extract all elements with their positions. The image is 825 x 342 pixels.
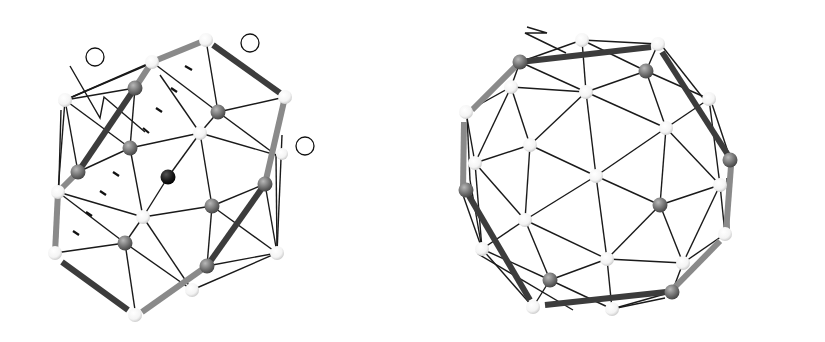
panel-b — [48, 33, 314, 322]
cluster-diagram-figure — [0, 0, 825, 342]
panel-mc-atoms — [459, 33, 738, 316]
label-circled-2-over-tau — [241, 34, 259, 52]
label-tau-circled-2 — [86, 48, 104, 66]
label-circled-3-over-tau — [296, 137, 314, 155]
five-pointer — [525, 27, 566, 53]
panel-mc — [459, 27, 738, 316]
